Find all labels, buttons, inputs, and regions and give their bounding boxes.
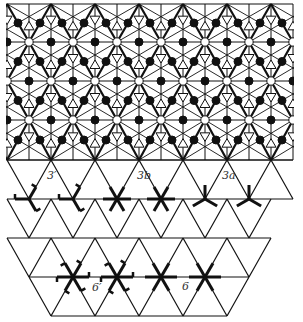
open-circle [201, 38, 209, 46]
lattice-edge [29, 238, 51, 277]
filled-dot [102, 19, 110, 27]
hook-mark [109, 291, 113, 294]
filled-dot [80, 97, 88, 105]
filled-dot [212, 58, 220, 66]
filled-dot [14, 136, 22, 144]
triangle-marker [288, 55, 298, 64]
thick-edge [0, 120, 7, 160]
lattice-edge [7, 199, 29, 238]
symbol-6prime-arm [117, 277, 125, 291]
open-circle [157, 116, 165, 124]
filled-dot [113, 77, 121, 85]
symbol-3prime-arm [29, 199, 36, 211]
filled-dot [278, 58, 286, 66]
triangle-marker [178, 16, 188, 25]
filled-dot [256, 19, 264, 27]
thick-edge [293, 4, 303, 42]
open-circle [201, 116, 209, 124]
open-circle [223, 77, 231, 85]
symbol-6prime-arm [73, 263, 81, 277]
triangle-marker [200, 99, 210, 108]
symbol-3a-arm [237, 199, 249, 206]
hook-mark [125, 288, 129, 291]
open-circle [91, 77, 99, 85]
triangle-marker [112, 55, 122, 64]
filled-dot [168, 136, 176, 144]
triangle-marker [156, 99, 166, 108]
label-6prime: 6′ [92, 282, 102, 293]
triangle-marker [244, 21, 254, 30]
thin-line [0, 81, 7, 120]
filled-dot [234, 97, 242, 105]
filled-dot [190, 58, 198, 66]
thick-edge [293, 120, 303, 160]
open-circle [289, 116, 297, 124]
triangle-marker [266, 16, 276, 25]
triangle-marker [134, 60, 144, 69]
symbol-6-arm [161, 277, 169, 291]
filled-dot [14, 58, 22, 66]
symbol-6prime-arm [65, 263, 73, 277]
triangle-marker [222, 94, 232, 103]
filled-dot [256, 97, 264, 105]
triangle-marker [2, 94, 12, 103]
hook-mark [76, 184, 80, 187]
label-3prime: 3′ [47, 170, 57, 181]
filled-dot [179, 116, 187, 124]
filled-dot [278, 97, 286, 105]
filled-dot [212, 97, 220, 105]
symbol-6-arm [153, 277, 161, 291]
filled-dot [80, 136, 88, 144]
open-circle [47, 77, 55, 85]
label-6: 6 [182, 281, 189, 292]
thin-line [0, 120, 7, 160]
filled-dot [36, 58, 44, 66]
lattice-edge [227, 277, 249, 316]
filled-dot [168, 19, 176, 27]
symbol-6-arm [197, 263, 205, 277]
filled-dot [91, 38, 99, 46]
filled-dot [223, 116, 231, 124]
thin-line [293, 42, 303, 81]
lattice-edge [7, 160, 29, 199]
triangle-marker [46, 94, 56, 103]
thin-line [293, 4, 303, 42]
filled-dot [234, 58, 242, 66]
filled-dot [212, 136, 220, 144]
symbol-3a-arm [193, 199, 205, 206]
lattice-edge [183, 160, 205, 199]
filled-dot [256, 136, 264, 144]
filled-dot [3, 38, 11, 46]
filled-dot [14, 97, 22, 105]
triangle-marker [68, 21, 78, 30]
filled-dot [102, 136, 110, 144]
triangle-marker [112, 99, 122, 108]
filled-dot [267, 116, 275, 124]
triangle-marker [200, 133, 210, 142]
open-circle [3, 77, 11, 85]
triangle-marker [156, 55, 166, 64]
lattice-edge [249, 160, 271, 199]
triangle-marker [24, 55, 34, 64]
symbol-3b-arm [117, 187, 124, 199]
triangle-marker [90, 94, 100, 103]
filled-dot [146, 136, 154, 144]
lattice-edge [271, 160, 293, 199]
open-circle [245, 116, 253, 124]
thick-edge [293, 42, 303, 81]
filled-dot [146, 97, 154, 105]
filled-dot [36, 97, 44, 105]
symbol-3a-arm [249, 199, 261, 206]
filled-dot [179, 38, 187, 46]
triangle-marker [68, 133, 78, 142]
filled-dot [190, 97, 198, 105]
symbol-3prime-arm [73, 199, 80, 211]
top-pattern [0, 4, 303, 160]
triangle-marker [266, 60, 276, 69]
symbol-6-arm [197, 277, 205, 291]
triangle-marker [2, 16, 12, 25]
symbol-6-arm [153, 263, 161, 277]
filled-dot [278, 136, 286, 144]
triangle-marker [134, 94, 144, 103]
thin-line [271, 120, 303, 160]
